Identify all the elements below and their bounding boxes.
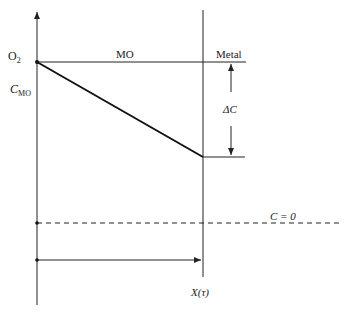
diagram-canvas	[0, 0, 347, 319]
c-text: C	[10, 82, 18, 96]
oxygen-text: O	[8, 49, 17, 63]
surface-point	[35, 60, 39, 64]
thickness-label: X(τ)	[191, 287, 209, 298]
mo-subscript: MO	[18, 89, 31, 98]
oxide-region-label: MO	[116, 49, 134, 60]
oxygen-label: O2	[8, 50, 21, 65]
zero-concentration-label: C = 0	[270, 211, 296, 222]
delta-c-label: ΔC	[223, 104, 237, 115]
zero-point	[35, 221, 39, 225]
concentration-profile	[37, 62, 203, 157]
thickness-start-point	[35, 258, 39, 262]
metal-region-label: Metal	[216, 49, 242, 60]
oxygen-subscript: 2	[17, 56, 21, 65]
c-mo-label: CMO	[10, 83, 31, 98]
